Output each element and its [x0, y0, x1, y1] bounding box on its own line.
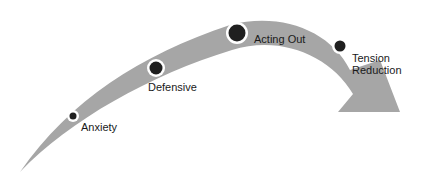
- node-acting-out: [226, 22, 248, 44]
- label-acting-out: Acting Out: [254, 33, 305, 45]
- node-defensive: [147, 59, 165, 77]
- label-anxiety: Anxiety: [81, 121, 117, 133]
- label-reduction: Reduction: [352, 64, 402, 76]
- escalation-arrow-diagram: [0, 0, 428, 182]
- node-tension-reduction: [332, 38, 348, 54]
- label-tension: Tension: [352, 52, 390, 64]
- node-anxiety: [67, 110, 79, 122]
- label-defensive: Defensive: [148, 81, 197, 93]
